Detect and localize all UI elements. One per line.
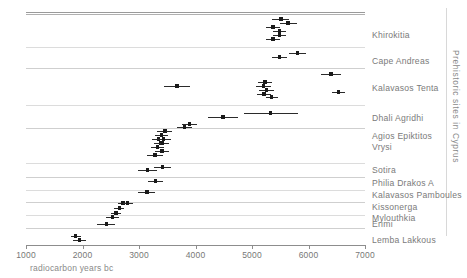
x-tick-7000: [365, 245, 366, 249]
data-marker: [279, 17, 282, 20]
data-marker: [175, 84, 178, 87]
data-marker: [183, 125, 186, 128]
site-label-cape-andreas: Cape Andreas: [372, 56, 429, 67]
data-marker: [269, 111, 272, 114]
data-marker: [156, 145, 159, 148]
site-label-khirokitia: Khirokitia: [372, 30, 410, 41]
data-marker: [265, 88, 268, 91]
row-separator: [26, 105, 365, 106]
site-label-kalavasos-tenta: Kalavasos Tenta: [372, 83, 439, 94]
data-marker: [111, 215, 114, 218]
row-separator: [26, 177, 365, 178]
row-separator: [26, 128, 365, 129]
site-label-erimi: Erimi: [372, 219, 393, 230]
radiocarbon-chart: 1000200030004000500060007000 radiocarbon…: [0, 0, 467, 278]
data-marker: [296, 51, 299, 54]
x-tick-label-4000: 4000: [186, 250, 206, 260]
data-marker: [286, 21, 289, 24]
data-marker: [118, 206, 121, 209]
x-tick-label-5000: 5000: [242, 250, 262, 260]
data-marker: [263, 80, 266, 83]
data-marker: [126, 201, 129, 204]
x-axis-caption: radiocarbon years bc: [30, 263, 113, 273]
data-marker: [145, 190, 148, 193]
row-separator: [26, 163, 365, 164]
side-title-rule: [446, 8, 447, 236]
site-label-kalavasos-pamboules: Kalavasos Pamboules: [372, 190, 462, 201]
site-label-sotira: Sotira: [372, 165, 396, 176]
data-marker: [163, 129, 166, 132]
data-marker: [270, 95, 273, 98]
row-separator: [26, 202, 365, 203]
data-marker: [78, 238, 81, 241]
site-label-dhali-agridhi: Dhali Agridhi: [372, 113, 424, 124]
side-title: Prehistoric sites in Cyprus: [451, 50, 461, 163]
x-tick-label-3000: 3000: [129, 250, 149, 260]
site-label-philia-drakos-a: Philia Drakos A: [372, 178, 434, 189]
x-tick-1000: [26, 245, 27, 249]
data-marker: [105, 222, 108, 225]
data-marker: [74, 234, 77, 237]
data-marker: [114, 211, 117, 214]
site-label-agios-epiktitos-vrysi: Vrysi: [372, 142, 392, 153]
data-marker: [278, 33, 281, 36]
row-separator: [26, 228, 365, 229]
site-label-lemba-lakkous: Lemba Lakkous: [372, 235, 436, 246]
row-separator: [26, 190, 365, 191]
data-marker: [278, 29, 281, 32]
x-tick-6000: [309, 245, 310, 249]
data-marker: [221, 115, 224, 118]
x-tick-label-2000: 2000: [73, 250, 93, 260]
x-tick-label-1000: 1000: [16, 250, 36, 260]
data-marker: [271, 25, 274, 28]
data-marker: [329, 72, 332, 75]
data-marker: [262, 84, 265, 87]
row-separator: [26, 47, 365, 48]
data-marker: [162, 137, 165, 140]
data-marker: [262, 92, 265, 95]
row-separator: [26, 215, 365, 216]
x-tick-4000: [196, 245, 197, 249]
x-tick-label-6000: 6000: [299, 250, 319, 260]
row-separator: [26, 68, 365, 69]
data-marker: [161, 141, 164, 144]
data-marker: [271, 37, 274, 40]
data-marker: [188, 122, 191, 125]
x-tick-5000: [252, 245, 253, 249]
x-tick-label-7000: 7000: [355, 250, 375, 260]
data-marker: [154, 179, 157, 182]
data-marker: [161, 165, 164, 168]
row-separator: [26, 14, 365, 15]
data-marker: [146, 168, 149, 171]
data-marker: [160, 149, 163, 152]
data-marker: [153, 153, 156, 156]
x-tick-2000: [83, 245, 84, 249]
site-label-agios-epiktitos-vrysi: Agios Epiktitos: [372, 131, 432, 142]
data-marker: [278, 55, 281, 58]
data-marker: [337, 90, 340, 93]
site-label-kissonerga-mylouthkia: Kissonerga: [372, 202, 418, 213]
x-tick-3000: [139, 245, 140, 249]
data-marker: [160, 133, 163, 136]
